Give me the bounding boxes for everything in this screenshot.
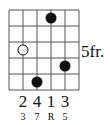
interval-label: 7 [30,111,44,122]
finger-label: 1 [44,93,58,111]
finger-label: 4 [30,93,44,111]
interval-label: 5 [58,111,72,122]
interval-label: R [44,111,58,122]
finger-label: 3 [58,93,72,111]
finger-dot [60,61,71,72]
finger-dot [46,13,57,24]
finger-label: 2 [16,93,30,111]
finger-dot [32,77,43,88]
open-dot [18,45,28,55]
interval-label: 3 [16,111,30,122]
fret-position-label: 5fr. [81,43,104,61]
